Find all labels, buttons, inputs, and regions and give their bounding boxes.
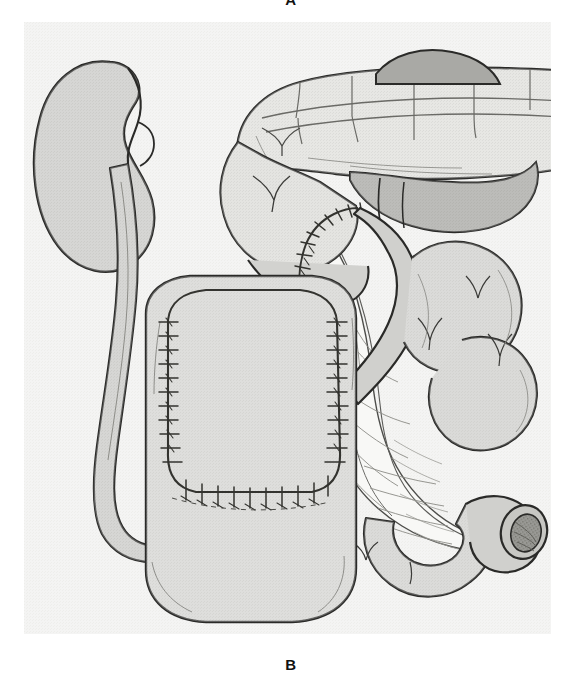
bladder <box>146 276 356 622</box>
panel-label-a: A <box>0 0 582 7</box>
surgical-illustration <box>0 22 582 650</box>
illustration-canvas <box>0 22 582 650</box>
figure-root: A <box>0 0 582 686</box>
panel-label-b: B <box>0 656 582 673</box>
